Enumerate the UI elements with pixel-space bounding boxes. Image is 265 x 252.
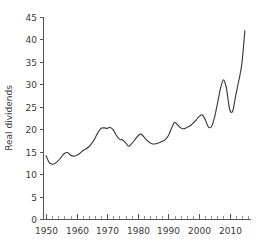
x-axis-group: 1950196019701980199020002010 [35,214,251,236]
y-axis-ticks [40,18,44,220]
x-axis-minor-ticks [47,216,249,219]
y-tick-label-30: 30 [26,80,38,90]
x-tick-label-1960: 1960 [66,226,89,236]
y-tick-label-10: 10 [26,170,38,180]
x-tick-label-1950: 1950 [35,226,58,236]
y-tick-label-15: 15 [26,148,37,158]
x-tick-label-1980: 1980 [127,226,150,236]
x-tick-label-2000: 2000 [188,226,211,236]
y-tick-label-35: 35 [26,58,37,68]
y-tick-label-20: 20 [26,125,38,135]
x-axis-major-ticks [47,214,231,219]
y-axis-title: Real dividends [4,85,14,151]
plot-series-group [46,30,245,164]
y-tick-label-40: 40 [26,35,38,45]
real-dividends-line-chart: 051015202530354045 Real dividends 195019… [0,0,265,252]
y-axis-tick-labels: 051015202530354045 [26,13,38,225]
y-tick-label-25: 25 [26,103,37,113]
series-line-real-dividends [46,30,245,164]
x-axis-tick-labels: 1950196019701980199020002010 [35,226,242,236]
x-tick-label-1970: 1970 [96,226,119,236]
x-tick-label-1990: 1990 [157,226,180,236]
chart-container: 051015202530354045 Real dividends 195019… [0,0,265,252]
y-tick-label-0: 0 [31,215,37,225]
y-axis-group: 051015202530354045 Real dividends [4,13,44,225]
y-tick-label-45: 45 [26,13,37,23]
y-tick-label-5: 5 [31,193,37,203]
x-tick-label-2010: 2010 [219,226,242,236]
